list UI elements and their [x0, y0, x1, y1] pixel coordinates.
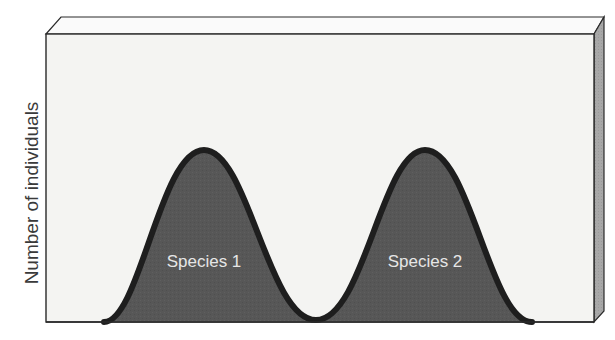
species-1-label: Species 1 [167, 252, 242, 272]
panel-top-face [46, 17, 604, 34]
y-axis-label: Number of individuals [21, 102, 43, 285]
panel-side-face [594, 17, 604, 322]
panel-front-face [46, 34, 594, 322]
niche-overlap-diagram: Number of individuals Species 1 Species … [0, 0, 615, 340]
species-2-label: Species 2 [388, 252, 463, 272]
diagram-canvas [0, 0, 615, 340]
